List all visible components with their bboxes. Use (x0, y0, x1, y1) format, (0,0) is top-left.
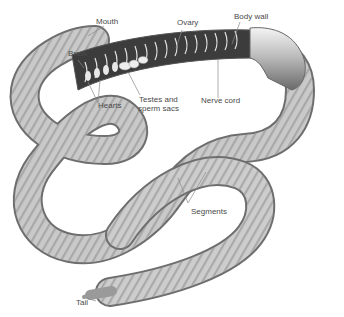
label-testes-line2: sperm sacs (138, 104, 179, 113)
label-mouth: Mouth (96, 17, 118, 26)
label-body-wall: Body wall (234, 12, 268, 21)
label-brain: Brain (68, 49, 87, 58)
worm-body (25, 40, 300, 297)
earthworm-diagram: Mouth Brain Hearts Testes and sperm sacs… (0, 0, 344, 317)
label-hearts: Hearts (98, 101, 122, 110)
label-tail: Tail (76, 298, 88, 307)
label-testes-sperm-sacs: Testes and sperm sacs (138, 95, 179, 113)
label-nerve-cord: Nerve cord (201, 96, 240, 105)
label-ovary: Ovary (177, 18, 198, 27)
earthworm-illustration (0, 0, 344, 317)
label-testes-line1: Testes and (139, 95, 178, 104)
label-segments: Segments (191, 207, 227, 216)
